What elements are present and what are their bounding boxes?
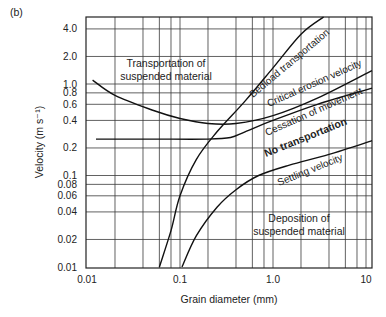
curve-settling-velocity [182, 141, 372, 267]
y-axis-ticks: 0.010.020.040.060.080.10.20.40.60.81.02.… [58, 23, 78, 272]
y-tick-label: 4.0 [63, 23, 77, 34]
region-label-suspended-2: suspended material [120, 70, 212, 82]
y-tick-label: 1.0 [63, 79, 77, 90]
y-tick-label: 2.0 [63, 51, 77, 62]
x-tick-label: 10 [360, 274, 372, 285]
x-tick-label: 1.0 [266, 274, 280, 285]
y-tick-label: 0.6 [63, 99, 77, 110]
y-tick-label: 0.06 [58, 190, 78, 201]
y-tick-label: 0.01 [58, 262, 78, 273]
curve-label-settling: Settling velocity [276, 152, 345, 188]
region-label-deposition-2: suspended material [253, 225, 345, 237]
y-tick-label: 0.02 [58, 234, 78, 245]
region-label-deposition-1: Deposition of [268, 212, 329, 224]
y-tick-label: 0.4 [63, 115, 77, 126]
y-tick-label: 0.2 [63, 142, 77, 153]
y-axis-title: Velocity (m s⁻¹) [33, 106, 45, 179]
region-label-suspended-1: Transportation of [127, 57, 206, 69]
x-tick-label: 0.01 [77, 274, 97, 285]
y-tick-label: 0.1 [63, 170, 77, 181]
x-tick-label: 0.1 [173, 274, 187, 285]
x-axis-ticks: 0.010.11.010 [77, 274, 372, 285]
panel-label: (b) [10, 6, 23, 18]
y-tick-label: 0.04 [58, 206, 78, 217]
x-axis-title: Grain diameter (mm) [181, 293, 278, 305]
grain-velocity-chart: (b) 0.010.020.040.060.080.10.20.40.60.81… [0, 0, 386, 317]
